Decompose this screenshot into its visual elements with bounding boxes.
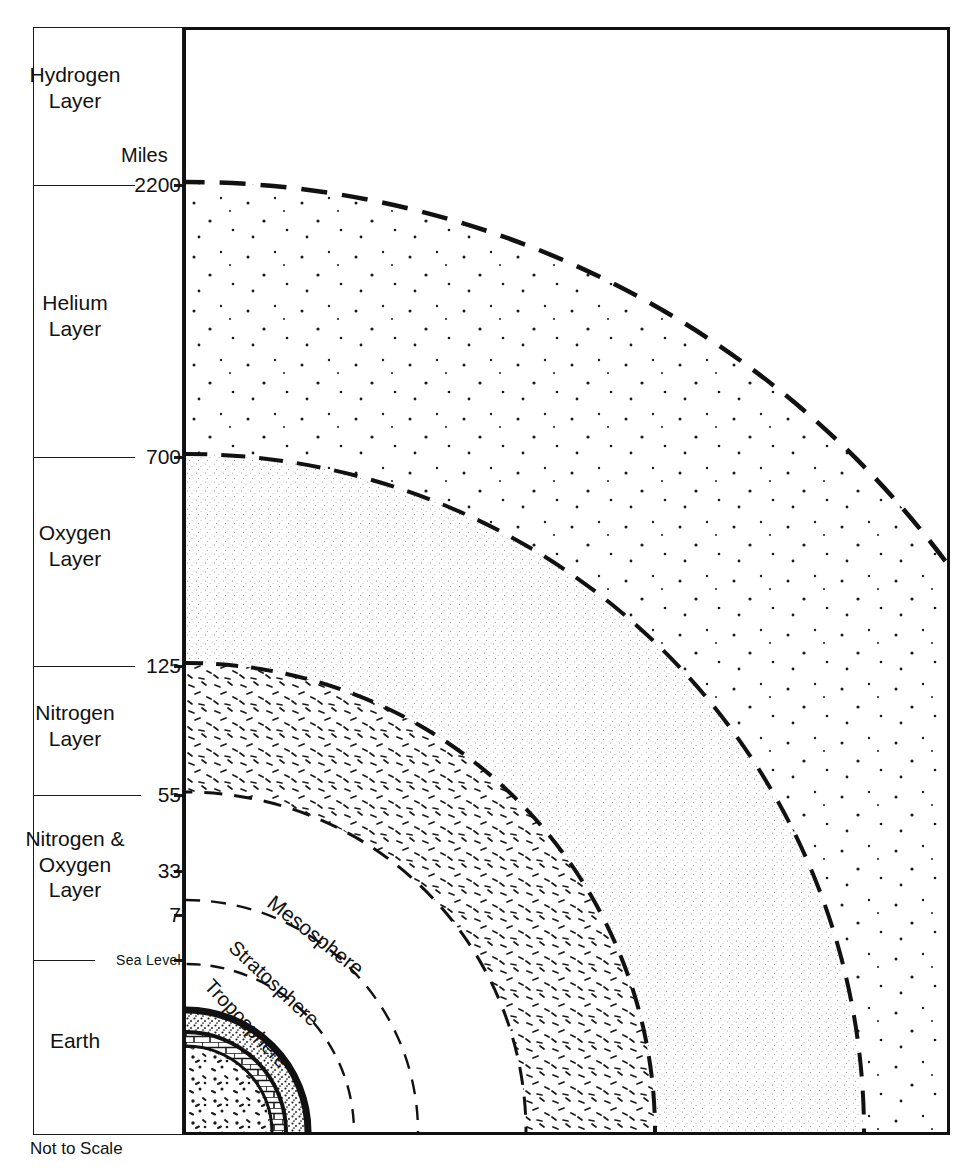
layer-label-helium: Helium Layer bbox=[0, 290, 150, 341]
layer-label-nitrogen-oxygen: Nitrogen & Oxygen Layer bbox=[0, 826, 150, 903]
layer-label-line: Layer bbox=[0, 877, 150, 903]
tick-miles-7: 7 bbox=[169, 903, 181, 927]
divider-125 bbox=[33, 666, 135, 667]
miles-column-header: Miles bbox=[121, 144, 168, 167]
tick-miles-2200: 2200 bbox=[134, 173, 181, 197]
tick-miles-33: 33 bbox=[158, 859, 181, 883]
layer-label-line: Layer bbox=[0, 88, 150, 114]
atmosphere-cross-section-svg bbox=[186, 30, 947, 1132]
divider-top bbox=[33, 27, 183, 28]
layer-label-line: Oxygen bbox=[0, 852, 150, 878]
layer-label-line: Earth bbox=[0, 1028, 150, 1054]
tick-miles-125: 125 bbox=[146, 654, 181, 678]
divider-2200 bbox=[33, 185, 135, 186]
divider-700 bbox=[33, 457, 135, 458]
layer-label-line: Layer bbox=[0, 546, 150, 572]
layer-label-earth: Earth bbox=[0, 1028, 150, 1054]
tick-miles-700: 700 bbox=[146, 445, 181, 469]
divider-55 bbox=[33, 795, 141, 796]
layer-label-hydrogen: Hydrogen Layer bbox=[0, 62, 150, 113]
divider-bottom bbox=[33, 1134, 183, 1135]
layer-label-line: Layer bbox=[0, 316, 150, 342]
layer-label-nitrogen: Nitrogen Layer bbox=[0, 700, 150, 751]
tick-label-sea-level: Sea Level bbox=[116, 952, 181, 968]
layer-label-oxygen: Oxygen Layer bbox=[0, 520, 150, 571]
diagram-stage: Mesosphere Stratosphere Troposphere bbox=[186, 30, 947, 1132]
layer-label-line: Layer bbox=[0, 726, 150, 752]
layer-label-line: Helium bbox=[0, 290, 150, 316]
tick-miles-55: 55 bbox=[158, 783, 181, 807]
layer-label-line: Hydrogen bbox=[0, 62, 150, 88]
layer-label-line: Nitrogen & bbox=[0, 826, 150, 852]
divider-sea-level bbox=[33, 960, 95, 961]
diagram-frame: Mesosphere Stratosphere Troposphere bbox=[183, 27, 950, 1135]
panel-left-border bbox=[33, 27, 34, 1135]
layer-label-line: Nitrogen bbox=[0, 700, 150, 726]
figure-caption: Not to Scale bbox=[30, 1139, 123, 1159]
layer-label-line: Oxygen bbox=[0, 520, 150, 546]
atmosphere-layers-figure: Hydrogen Layer Helium Layer Oxygen Layer… bbox=[0, 0, 978, 1173]
